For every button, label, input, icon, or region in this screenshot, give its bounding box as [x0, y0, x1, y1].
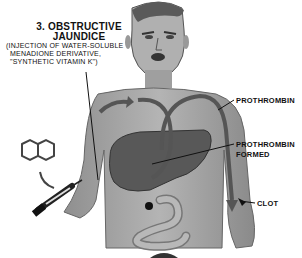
subtitle-line-1: (INJECTION OF WATER-SOLUBLE	[6, 42, 123, 50]
label-prothrombin-formed-line-1: PROTHROMBIN	[236, 140, 295, 150]
label-prothrombin-formed-line-2: FORMED	[236, 150, 295, 160]
label-clot: CLOT	[257, 199, 278, 208]
subtitle-caption: (INJECTION OF WATER-SOLUBLE MENADIONE DE…	[6, 42, 123, 66]
title-heading: 3. OBSTRUCTIVE JAUNDICE	[26, 22, 132, 42]
medical-illustration: 3. OBSTRUCTIVE JAUNDICE (INJECTION OF WA…	[0, 0, 302, 258]
head	[125, 2, 189, 78]
label-prothrombin-formed: PROTHROMBIN FORMED	[236, 140, 295, 160]
subtitle-line-3: "SYNTHETIC VITAMIN K")	[6, 58, 123, 66]
naphthoquinone-ring-icon	[22, 140, 54, 188]
subtitle-line-2: MENADIONE DERIVATIVE,	[6, 50, 123, 58]
title-line-2: JAUNDICE	[26, 32, 132, 42]
label-prothrombin: PROTHROMBIN	[236, 96, 295, 105]
